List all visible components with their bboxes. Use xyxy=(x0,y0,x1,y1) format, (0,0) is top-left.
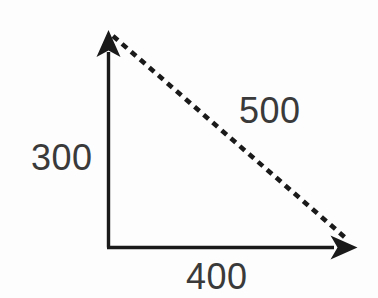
hypotenuse-label: 500 xyxy=(239,93,301,129)
vertical-leg-label: 300 xyxy=(31,140,93,176)
up-arrow-icon xyxy=(97,30,121,248)
triangle-figure: 300 400 500 xyxy=(0,0,378,298)
horizontal-arrowhead xyxy=(331,236,358,260)
horizontal-leg-label: 400 xyxy=(186,259,248,295)
dashed-line-icon xyxy=(113,36,348,240)
